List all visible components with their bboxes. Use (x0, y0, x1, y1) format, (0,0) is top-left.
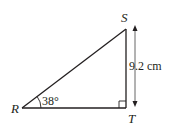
angle-arc-R (37, 97, 41, 109)
side-length-label: 9.2 cm (129, 59, 162, 73)
vertex-label-T: T (128, 111, 136, 126)
angle-label-R: 38° (42, 94, 59, 108)
arrowhead-down-icon (133, 101, 138, 107)
vertex-label-R: R (10, 101, 19, 116)
right-angle-marker (119, 101, 126, 108)
triangle-diagram: R S T 38° 9.2 cm (0, 0, 176, 129)
vertex-label-S: S (121, 10, 128, 25)
side-RS (22, 29, 126, 108)
arrowhead-up-icon (133, 25, 138, 31)
